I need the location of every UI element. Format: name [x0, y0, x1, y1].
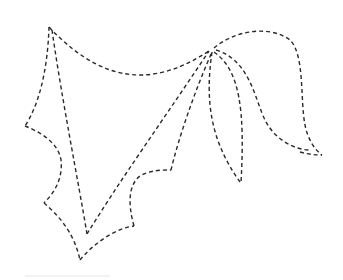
spine-left — [52, 30, 87, 234]
left-lower-edge — [44, 203, 80, 260]
top-arc — [49, 27, 209, 75]
spine-inner — [171, 52, 212, 170]
right-scallop — [130, 170, 171, 226]
tendril-2 — [216, 50, 310, 150]
left-upper-edge — [25, 27, 49, 126]
tendril-3-tip — [300, 152, 322, 155]
dashed-sketch-drawing — [0, 0, 343, 280]
tendril-3 — [214, 31, 322, 155]
left-scallop — [25, 126, 61, 203]
spine-right — [87, 51, 209, 234]
tendril-1 — [209, 52, 240, 182]
